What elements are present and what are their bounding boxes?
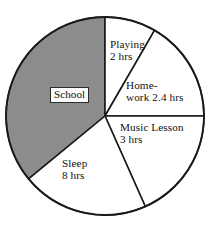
- pie-label-homework-name: Home-: [126, 79, 183, 91]
- pie-label-school: School: [50, 87, 89, 103]
- pie-label-playing-name: Playing: [110, 38, 145, 50]
- pie-chart: Playing 2 hrs Home- work 2.4 hrs Music L…: [0, 0, 211, 228]
- pie-label-homework-value: work 2.4 hrs: [126, 91, 183, 103]
- pie-label-homework: Home- work 2.4 hrs: [126, 79, 183, 104]
- pie-label-music-lesson-name: Music Lesson: [120, 121, 184, 133]
- pie-label-sleep-name: Sleep: [62, 157, 87, 169]
- pie-label-playing: Playing 2 hrs: [110, 38, 145, 63]
- pie-chart-graphic: [0, 0, 211, 228]
- pie-label-sleep: Sleep 8 hrs: [62, 157, 87, 182]
- pie-label-sleep-value: 8 hrs: [62, 169, 87, 181]
- pie-label-music-lesson: Music Lesson 3 hrs: [120, 121, 184, 146]
- pie-label-school-name: School: [54, 88, 85, 100]
- pie-label-playing-value: 2 hrs: [110, 50, 145, 62]
- pie-label-music-lesson-value: 3 hrs: [120, 133, 184, 145]
